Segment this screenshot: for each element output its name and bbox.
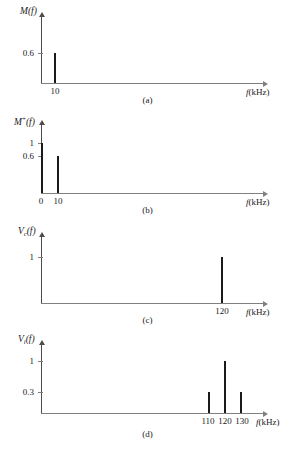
y-tick-mark-d-1 [38, 392, 43, 393]
y-axis-title-b: M+(f) [14, 114, 35, 127]
y-axis-arrow-d [39, 340, 45, 345]
spectral-line-c-120khz [221, 257, 223, 303]
x-tick-label-d-2: 130 [231, 417, 253, 426]
panel-caption-b: (b) [0, 205, 295, 215]
plot-area-c: Vc(f) 1 120 f(kHz) [0, 220, 295, 312]
x-axis-arrow-c [263, 301, 268, 307]
panel-caption-c: (c) [0, 315, 295, 325]
panel-b: M+(f) 1 0.6 0 10 f(kHz) (b) [0, 110, 295, 220]
y-tick-mark-c-0 [38, 257, 43, 258]
x-axis-line-d [41, 413, 263, 414]
panel-a: M(f) 0.6 10 ff (kHz)(kHz) (a) [0, 0, 295, 110]
y-axis-line-a [41, 17, 42, 83]
y-tick-label-a-0: 0.6 [8, 49, 34, 58]
y-tick-label-d-0: 1 [12, 357, 34, 366]
spectral-line-d-110khz [208, 392, 210, 413]
y-axis-title-d: Vi(f) [18, 334, 35, 345]
y-tick-label-c-0: 1 [12, 253, 34, 262]
y-axis-title-c: Vc(f) [18, 226, 36, 237]
plot-area-d: Vi(f) 1 0.3 110 120 130 f(kHz) [0, 330, 295, 422]
y-tick-mark-d-0 [38, 361, 43, 362]
x-axis-line-b [41, 193, 263, 194]
y-axis-arrow-c [39, 232, 45, 237]
spectral-line-a-10khz [54, 53, 56, 83]
y-axis-line-d [41, 345, 42, 413]
y-tick-mark-a-0 [38, 53, 43, 54]
spectral-line-d-130khz [240, 392, 242, 413]
y-axis-title-a: M(f) [20, 6, 37, 16]
x-axis-line-a [41, 83, 263, 84]
x-axis-arrow-d [263, 411, 268, 417]
y-tick-label-b-0: 1 [8, 139, 34, 148]
x-axis-arrow-a [263, 81, 268, 87]
panel-caption-a: (a) [0, 95, 295, 105]
panel-caption-d: (d) [0, 429, 295, 439]
spectral-line-b-10khz [57, 156, 59, 193]
spectral-line-d-120khz [224, 361, 226, 413]
plot-area-a: M(f) 0.6 10 ff (kHz)(kHz) [0, 0, 295, 92]
spectra-figure: M(f) 0.6 10 ff (kHz)(kHz) (a) M+(f) [0, 0, 295, 449]
panel-d: Vi(f) 1 0.3 110 120 130 f(kHz) (d) [0, 330, 295, 440]
y-axis-arrow-b [39, 120, 45, 125]
y-axis-arrow-a [39, 12, 45, 17]
y-axis-line-c [41, 237, 42, 303]
y-tick-label-d-1: 0.3 [6, 388, 34, 397]
x-axis-title-d: f(kHz) [256, 417, 280, 427]
panel-c: Vc(f) 1 120 f(kHz) (c) [0, 220, 295, 330]
y-tick-label-b-1: 0.6 [8, 152, 34, 161]
spectral-line-b-0khz [41, 143, 43, 193]
x-axis-line-c [41, 303, 263, 304]
plot-area-b: M+(f) 1 0.6 0 10 f(kHz) [0, 110, 295, 202]
x-axis-arrow-b [263, 191, 268, 197]
